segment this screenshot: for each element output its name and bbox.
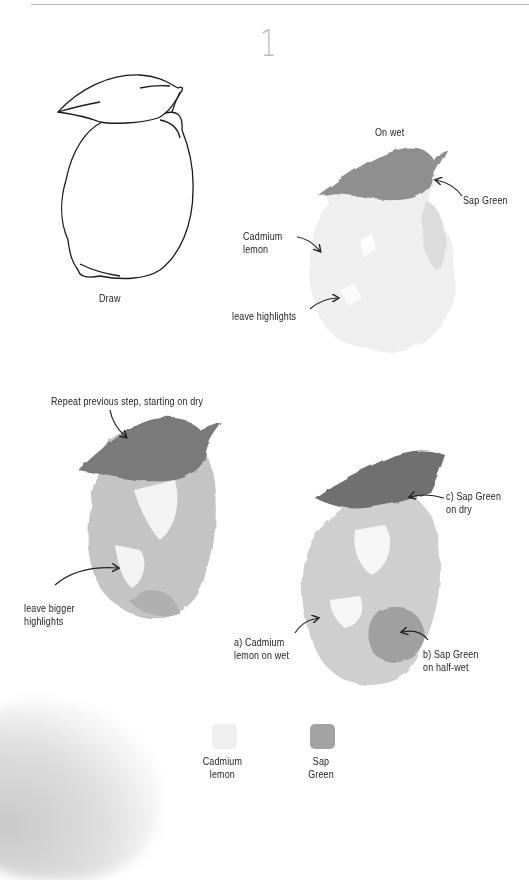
label-line: Green [304, 768, 338, 781]
lemon-on-wet-painting [310, 148, 456, 352]
label-sap-green: Sap Green [463, 194, 508, 207]
label-b-sap-green-halfwet: b) Sap Green on half-wet [423, 648, 479, 674]
repeat-title: Repeat previous step, starting on dry [51, 395, 203, 408]
draw-caption: Draw [99, 292, 121, 305]
label-line: on half-wet [423, 661, 479, 674]
lemon-line-drawing [58, 75, 193, 279]
label-line: c) Sap Green [446, 490, 501, 503]
label-line: leave bigger [24, 602, 75, 615]
legend-sap-green: Sap Green [304, 755, 338, 781]
label-a-cadmium-lemon-wet: a) Cadmium lemon on wet [234, 636, 289, 662]
label-c-sap-green-dry: c) Sap Green on dry [446, 490, 501, 516]
label-line: Cadmium [243, 230, 282, 243]
label-line: Sap [304, 755, 338, 768]
legend-cadmium-lemon: Cadmium lemon [202, 755, 243, 781]
arrow-sap-green [436, 180, 462, 196]
swatch-cadmium-lemon [212, 724, 237, 749]
label-line: on dry [446, 503, 501, 516]
label-leave-bigger-highlights: leave bigger highlights [24, 602, 75, 628]
label-line: Cadmium [202, 755, 243, 768]
label-leave-highlights: leave highlights [232, 310, 296, 323]
swatch-sap-green [310, 724, 335, 749]
on-wet-title: On wet [375, 126, 404, 139]
label-line: lemon on wet [234, 649, 289, 662]
label-line: lemon [202, 768, 243, 781]
label-cadmium-lemon: Cadmium lemon [243, 230, 282, 256]
label-line: b) Sap Green [423, 648, 479, 661]
label-line: a) Cadmium [234, 636, 289, 649]
label-line: highlights [24, 615, 75, 628]
label-line: lemon [243, 243, 282, 256]
